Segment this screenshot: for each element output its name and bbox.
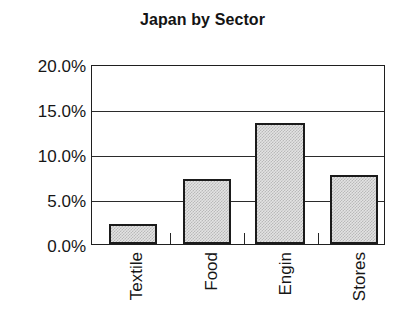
- gridline-15: [92, 111, 384, 112]
- y-axis-label-10: 10.0%: [6, 148, 86, 165]
- x-axis-label-food: Food: [203, 252, 220, 291]
- x-axis-tick-2: [244, 233, 245, 244]
- bar-stores: [330, 175, 378, 244]
- bar-textile: [109, 224, 157, 244]
- gridline-10: [92, 156, 384, 157]
- y-axis-label-0: 0.0%: [6, 238, 86, 255]
- x-axis-label-engin: Engin: [277, 252, 294, 295]
- bar-engin: [255, 123, 305, 244]
- chart-title: Japan by Sector: [0, 11, 405, 29]
- x-axis-label-textile: Textile: [128, 252, 145, 300]
- plot-area: [91, 65, 385, 245]
- y-axis-label-15: 15.0%: [6, 103, 86, 120]
- x-axis-label-stores: Stores: [351, 252, 368, 301]
- y-axis-label-5: 5.0%: [6, 193, 86, 210]
- x-axis-tick-1: [170, 233, 171, 244]
- x-axis-tick-3: [318, 233, 319, 244]
- bar-chart: Japan by Sector 20.0% 15.0% 10.0% 5.0% 0…: [0, 0, 405, 335]
- bar-food: [183, 179, 231, 244]
- y-axis-label-20: 20.0%: [6, 58, 86, 75]
